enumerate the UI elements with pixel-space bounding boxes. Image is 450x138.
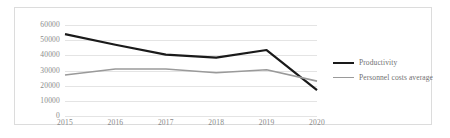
x-axis-tick-label: 2017 <box>158 119 174 127</box>
legend-line-icon <box>333 77 354 78</box>
y-axis-tick-label: 50000 <box>40 36 60 44</box>
gridline <box>65 116 317 117</box>
x-axis-tick-label: 2016 <box>107 119 123 127</box>
y-axis-tick-label: 20000 <box>40 82 60 90</box>
chart-frame: 0100002000030000400005000060000 20152016… <box>14 7 432 125</box>
series-line <box>65 69 317 81</box>
legend-item-label: Personnel costs average <box>359 73 433 82</box>
plot-area <box>65 25 317 116</box>
chart-legend: ProductivityPersonnel costs average <box>333 55 433 85</box>
series-lines <box>65 25 317 116</box>
x-axis-tick-label: 2018 <box>208 119 224 127</box>
legend-item-label: Productivity <box>359 58 397 67</box>
legend-item[interactable]: Productivity <box>333 55 433 70</box>
x-axis-tick-label: 2015 <box>57 119 73 127</box>
y-axis-tick-label: 40000 <box>40 51 60 59</box>
y-axis: 0100002000030000400005000060000 <box>21 25 60 116</box>
y-axis-tick-label: 60000 <box>40 21 60 29</box>
y-axis-tick-label: 30000 <box>40 67 60 75</box>
series-line <box>65 34 317 90</box>
x-axis: 201520162017201820192020 <box>65 119 317 131</box>
legend-line-icon <box>333 62 354 64</box>
x-axis-tick-label: 2019 <box>259 119 275 127</box>
legend-item[interactable]: Personnel costs average <box>333 70 433 85</box>
x-axis-tick-label: 2020 <box>309 119 325 127</box>
y-axis-tick-label: 10000 <box>40 97 60 105</box>
